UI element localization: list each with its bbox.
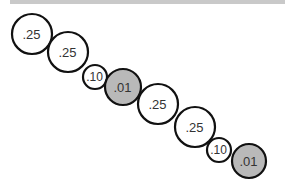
node-label: .25: [148, 97, 166, 112]
node-1: .25: [12, 14, 52, 54]
node-8: .01: [232, 144, 266, 178]
node-label: .25: [22, 27, 40, 42]
node-label: .25: [185, 120, 203, 135]
node-label: .10: [86, 70, 103, 84]
node-4: .01: [105, 69, 141, 105]
node-label: .10: [210, 143, 227, 157]
node-label: .25: [58, 45, 76, 60]
node-7: .10: [207, 138, 231, 162]
node-5: .25: [138, 84, 178, 124]
node-6: .25: [175, 107, 215, 147]
circle-chain-diagram: .25 .25 .10 .01 .25 .25 .10 .01: [0, 0, 285, 192]
node-label: .01: [113, 80, 131, 95]
node-2: .25: [48, 32, 88, 72]
node-label: .01: [239, 154, 257, 169]
node-3: .10: [83, 65, 107, 89]
